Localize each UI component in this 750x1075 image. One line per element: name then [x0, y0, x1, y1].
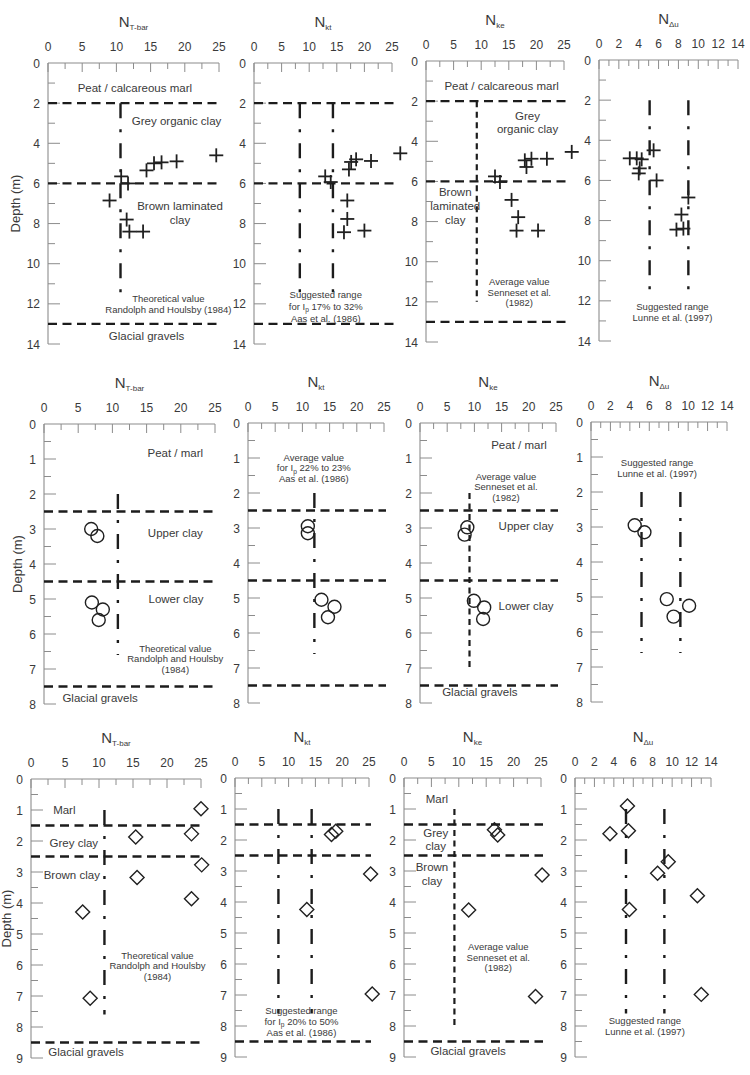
x-tick-label: 14 — [731, 37, 745, 51]
x-tick-label: 0 — [596, 37, 603, 51]
annotation-line: Brown clay — [44, 869, 100, 881]
annotation-line: Senneset et al. — [474, 481, 537, 492]
y-tick-label: 2 — [389, 834, 396, 848]
x-tick-label: 0 — [423, 38, 430, 52]
y-tick-label: 0 — [560, 772, 567, 786]
x-tick-label: 10 — [665, 755, 679, 769]
x-tick-label: 8 — [675, 37, 682, 51]
x-tick-label: 4 — [635, 37, 642, 51]
panel-title: NΔu — [649, 372, 670, 391]
y-tick-label: 3 — [233, 522, 240, 536]
x-tick-label: 4 — [627, 399, 634, 413]
annotation-line: Peat / marl — [148, 447, 204, 459]
y-tick-label: 4 — [239, 137, 246, 151]
y-tick-label: 8 — [239, 217, 246, 231]
x-tick-label: 2 — [591, 755, 598, 769]
annotation-line: clay — [422, 875, 443, 887]
annotation-text: 22% to 23% — [297, 462, 351, 473]
panel-title: Nke — [485, 11, 505, 30]
annotation: Lower clay — [499, 600, 554, 612]
annotation-line: Grey clay — [50, 837, 99, 849]
annotation-line: Grey — [423, 827, 448, 839]
annotation: Peat / marl — [148, 447, 204, 459]
y-tick-label: 3 — [560, 865, 567, 879]
annotation-line: Theoretical value — [132, 293, 204, 304]
data-point-diamond — [690, 889, 704, 903]
y-tick-label: 4 — [576, 556, 583, 570]
y-tick-label: 4 — [16, 897, 23, 911]
annotation-text: for I — [289, 301, 305, 312]
annotation-line: Randolph and Houlsby (1984) — [105, 304, 231, 315]
data-point-cross — [209, 148, 223, 162]
annotation-line: Average value — [489, 276, 550, 287]
x-tick-label: 10 — [303, 40, 317, 54]
y-tick-label: 2 — [220, 834, 227, 848]
data-point-cross — [510, 224, 524, 238]
annotation-line: Lower clay — [149, 593, 204, 605]
annotation: Brownclay — [416, 861, 449, 887]
panel-row1-ndu: NΔu0246810121402468101214Suggested range… — [578, 10, 745, 349]
data-point-cross — [340, 212, 354, 226]
annotation-line: Grey — [515, 110, 540, 122]
annotation: Glacial gravels — [109, 330, 185, 342]
data-point-circle — [683, 599, 696, 612]
annotation: Average valueSenneset et al.(1982) — [474, 471, 537, 503]
data-point-cross — [511, 210, 525, 224]
x-tick-label: 25 — [362, 755, 376, 769]
annotation-line: Marl — [53, 804, 75, 816]
x-tick-label: 2 — [607, 399, 614, 413]
x-tick-label: 5 — [272, 400, 279, 414]
title-main: N — [314, 13, 325, 30]
x-tick-label: 10 — [282, 755, 296, 769]
panel-row3-nkt: Nkt05101520250123456789Suggested rangefo… — [220, 728, 379, 1065]
data-point-cross — [531, 224, 545, 238]
annotation-line: Lunne et al. (1997) — [605, 1026, 685, 1037]
x-tick-label: 14 — [704, 755, 718, 769]
title-subscript: T-bar — [130, 23, 149, 32]
y-tick-label: 7 — [389, 989, 396, 1003]
x-tick-label: 20 — [160, 756, 174, 770]
annotation-line: (1982) — [485, 962, 512, 973]
y-tick-label: 2 — [233, 487, 240, 501]
annotation-line: Peat / calcareous marl — [78, 82, 192, 94]
x-tick-label: 5 — [450, 38, 457, 52]
annotation-line: clay — [170, 214, 191, 226]
annotation-line: Theoretical value — [139, 643, 211, 654]
annotation-text: for I — [264, 1016, 280, 1027]
x-tick-label: 10 — [692, 37, 706, 51]
data-point-circle — [458, 528, 471, 541]
y-tick-label: 14 — [233, 338, 247, 352]
y-tick-label: 5 — [233, 592, 240, 606]
x-tick-label: 12 — [701, 399, 715, 413]
y-tick-label: 9 — [389, 1051, 396, 1065]
x-tick-label: 0 — [245, 400, 252, 414]
x-tick-label: 25 — [208, 401, 222, 415]
data-point-circle — [660, 593, 673, 606]
data-point-cross — [540, 152, 554, 166]
x-tick-label: 0 — [232, 755, 239, 769]
x-tick-label: 20 — [530, 38, 544, 52]
y-tick-label: 4 — [411, 135, 418, 149]
annotation-line: clay — [426, 840, 447, 852]
annotation-line: Theoretical value — [121, 950, 193, 961]
x-tick-label: 25 — [377, 400, 391, 414]
y-tick-label: 7 — [233, 662, 240, 676]
x-tick-label: 0 — [588, 399, 595, 413]
y-tick-label: 3 — [576, 521, 583, 535]
x-tick-label: 10 — [296, 400, 310, 414]
annotation: Brown laminatedclay — [137, 200, 223, 226]
panel-row1-nke: Nke051015202502468101214Peat / calcareou… — [405, 11, 579, 350]
data-point-diamond — [535, 868, 549, 882]
title-subscript: ke — [489, 383, 498, 392]
x-tick-label: 25 — [534, 755, 548, 769]
annotation: Marl — [426, 793, 448, 805]
panel-title: NΔu — [633, 728, 654, 747]
x-tick-label: 15 — [126, 756, 140, 770]
annotation: Greyclay — [423, 827, 448, 853]
panel-title: NT-bar — [115, 374, 145, 393]
y-tick-label: 4 — [405, 557, 412, 571]
x-tick-label: 25 — [212, 40, 226, 54]
data-point-cross — [337, 225, 351, 239]
y-tick-label: 12 — [233, 297, 247, 311]
data-point-cross — [103, 193, 117, 207]
